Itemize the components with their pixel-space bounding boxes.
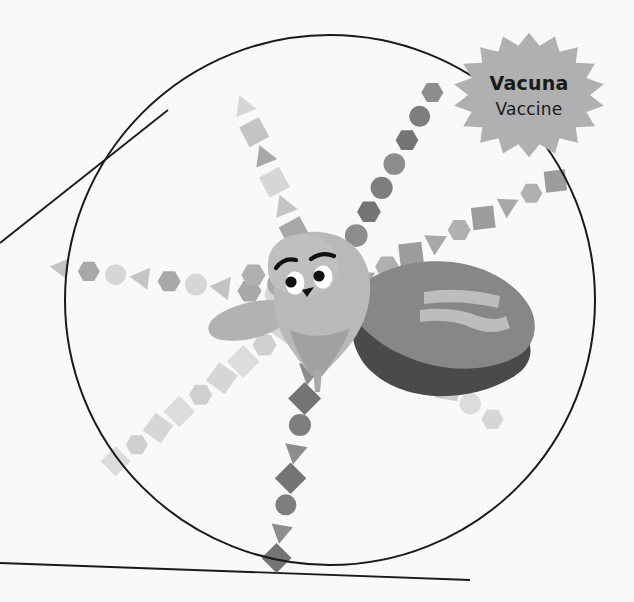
circle-ray-node xyxy=(460,393,481,414)
square-ray-node xyxy=(471,205,496,230)
circle-ray-node xyxy=(275,494,296,515)
badge-title: Vacuna xyxy=(490,72,569,94)
circle-ray-node xyxy=(409,106,430,127)
circle-ray-node xyxy=(371,177,393,199)
badge-subtitle: Vaccine xyxy=(496,99,563,119)
circle-ray-node xyxy=(383,153,405,175)
square-ray-node xyxy=(544,169,568,193)
right-pupil xyxy=(313,270,324,281)
illustration-canvas: Vacuna Vaccine xyxy=(0,0,634,602)
circle-ray-node xyxy=(185,274,207,296)
circle-ray-node xyxy=(289,414,311,436)
vaccine-illustration-svg: Vacuna Vaccine xyxy=(0,0,634,602)
left-pupil xyxy=(285,276,296,287)
circle-ray-node xyxy=(105,264,126,285)
